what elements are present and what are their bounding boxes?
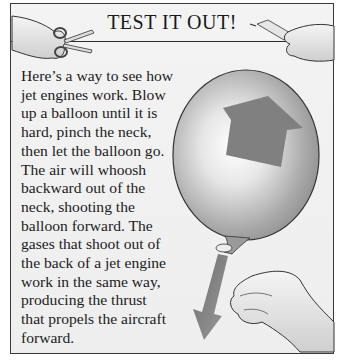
hand-with-glue-tube-icon <box>250 20 334 61</box>
illustrations <box>0 0 351 363</box>
pinching-hand-illustration <box>231 271 334 352</box>
hand-with-scissors-icon <box>12 16 94 58</box>
balloon-illustration <box>173 70 319 254</box>
down-arrow-icon <box>193 254 228 340</box>
